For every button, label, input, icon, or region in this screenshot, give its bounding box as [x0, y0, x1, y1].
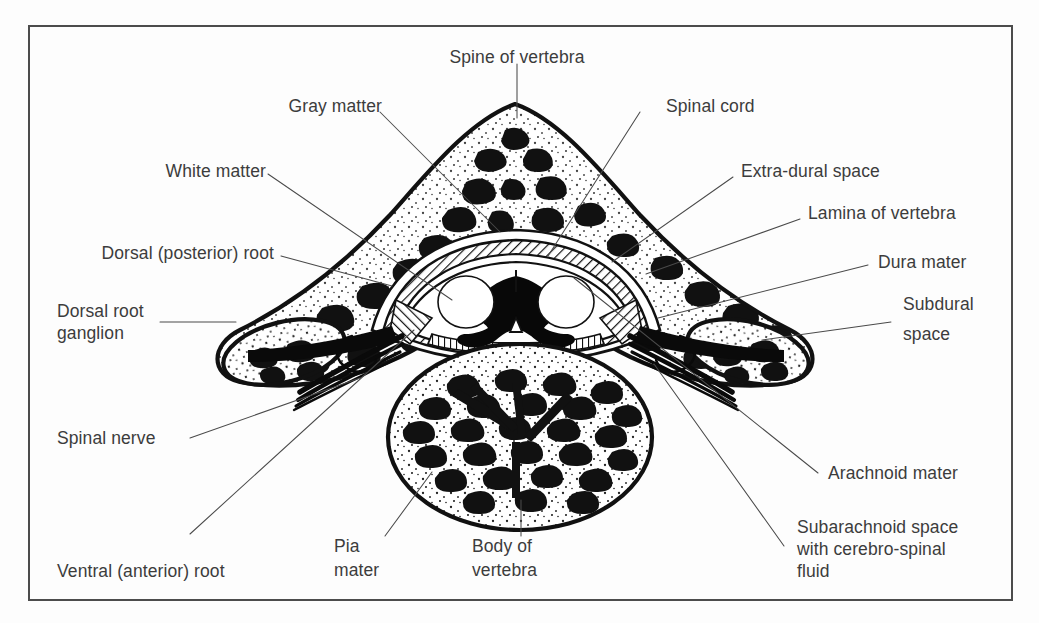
body-of-vertebra: [388, 344, 652, 530]
label-pia-mater-line2: mater: [334, 560, 379, 580]
label-gray-matter: Gray matter: [289, 96, 383, 116]
label-subarachnoid-line2: with cerebro-spinal: [796, 539, 946, 559]
label-spinal-cord: Spinal cord: [666, 96, 755, 116]
label-subarachnoid-line1: Subarachnoid space: [797, 517, 958, 537]
white-matter-left: [438, 276, 494, 328]
label-white-matter: White matter: [166, 161, 266, 181]
label-lamina-of-vertebra: Lamina of vertebra: [808, 203, 956, 223]
label-body-of-vertebra-line1: Body of: [472, 536, 532, 556]
label-subdural-space-line1: Subdural: [903, 294, 974, 314]
white-matter-right: [538, 276, 594, 328]
label-arachnoid-mater: Arachnoid mater: [828, 463, 958, 483]
label-dorsal-root-ganglion-line1: Dorsal root: [57, 301, 144, 321]
label-body-of-vertebra-line2: vertebra: [472, 560, 537, 580]
anatomy-figure: Spine of vertebra Gray matter Spinal cor…: [0, 0, 1039, 623]
label-extra-dural-space: Extra-dural space: [741, 161, 880, 181]
label-dura-mater: Dura mater: [878, 252, 967, 272]
label-subarachnoid-line3: fluid: [797, 561, 830, 581]
label-spinal-nerve: Spinal nerve: [57, 428, 155, 448]
vertebra-cross-section-diagram: Spine of vertebra Gray matter Spinal cor…: [0, 0, 1039, 623]
label-pia-mater-line1: Pia: [334, 536, 360, 556]
label-dorsal-posterior-root: Dorsal (posterior) root: [102, 243, 275, 263]
label-dorsal-root-ganglion-line2: ganglion: [57, 323, 124, 343]
label-subdural-space-line2: space: [903, 324, 950, 344]
label-ventral-anterior-root: Ventral (anterior) root: [57, 561, 225, 581]
label-spine-of-vertebra: Spine of vertebra: [450, 47, 585, 67]
